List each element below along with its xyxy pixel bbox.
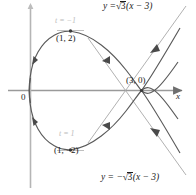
direction-arrow-left-lower — [32, 117, 38, 126]
curve-branch-upper-right — [142, 28, 181, 91]
radical-bottom: √3 — [123, 172, 133, 183]
figure-canvas — [0, 0, 196, 195]
asymptote-negative-line — [88, 38, 186, 175]
point-label-1-2: (1, 2) — [56, 34, 76, 43]
radical-top: √3 — [116, 1, 126, 12]
direction-arrow-branch-up-right — [150, 44, 160, 53]
parameter-label-t-positive-1: t = 1 — [59, 130, 75, 138]
equation-label-top: y =√3(x − 3) — [103, 1, 152, 12]
point-label-1-minus2: (1, −2) — [54, 146, 79, 155]
radicand-top: 3 — [120, 1, 126, 12]
equation-top-tail: (x − 3) — [126, 1, 152, 11]
radicand-bottom: 3 — [127, 172, 133, 183]
y-axis-arrowhead — [28, 3, 34, 9]
curve-upper — [29, 31, 178, 103]
direction-arrow-left-upper — [32, 56, 38, 65]
direction-arrow-branch-down-right — [150, 128, 160, 137]
curve-lower — [29, 78, 178, 150]
parametric-curve-figure: y =√3(x − 3) y = −√3(x − 3) (3, 0) (1, 2… — [0, 0, 196, 195]
origin-label: 0 — [21, 93, 26, 102]
equation-label-bottom: y = −√3(x − 3) — [101, 172, 159, 183]
x-axis-label: x — [176, 92, 180, 101]
parameter-label-t-negative-1: t = −1 — [55, 17, 76, 25]
point-label-3-0: (3, 0) — [126, 76, 146, 85]
equation-bottom-tail: (x − 3) — [133, 172, 159, 182]
axes-group — [8, 3, 182, 188]
equation-top-lhs: y = — [103, 1, 116, 11]
point-marker-3-0 — [140, 89, 143, 92]
curve-branch-lower-right — [142, 91, 181, 154]
equation-bottom-lhs: y = − — [101, 172, 123, 182]
direction-arrow-loop-lower-right — [102, 122, 110, 130]
